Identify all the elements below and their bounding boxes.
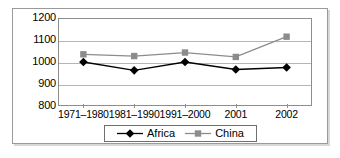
data-point-africa-0 bbox=[79, 58, 88, 67]
y-axis: 800900100011001200 bbox=[10, 0, 56, 158]
legend-marker-square-icon bbox=[185, 128, 211, 139]
data-point-africa-3 bbox=[232, 65, 241, 74]
data-point-africa-4 bbox=[282, 63, 291, 72]
chart-legend: AfricaChina bbox=[104, 125, 257, 142]
legend-marker-diamond-icon bbox=[117, 128, 143, 139]
data-point-africa-1 bbox=[130, 66, 139, 75]
legend-label-china: China bbox=[215, 128, 244, 139]
data-point-africa-2 bbox=[181, 58, 190, 67]
x-tick-mark-0 bbox=[83, 104, 84, 108]
chart-figure: 800900100011001200 1971–19801981–1990199… bbox=[0, 0, 340, 158]
y-tick-label-1200: 1200 bbox=[14, 12, 56, 23]
x-tick-label-2: 1991–2000 bbox=[160, 108, 211, 121]
x-tick-label-4: 2002 bbox=[275, 108, 298, 121]
x-tick-mark-4 bbox=[287, 104, 288, 108]
legend-label-africa: Africa bbox=[147, 128, 175, 139]
y-tick-label-800: 800 bbox=[14, 100, 56, 111]
data-point-china-4 bbox=[283, 34, 289, 40]
x-tick-label-1: 1981–1990 bbox=[109, 108, 160, 121]
x-tick-mark-3 bbox=[236, 104, 237, 108]
data-point-china-1 bbox=[131, 53, 137, 59]
legend-entry-africa: Africa bbox=[117, 128, 175, 139]
data-point-china-2 bbox=[182, 49, 188, 55]
y-tick-label-1000: 1000 bbox=[14, 56, 56, 67]
y-tick-label-900: 900 bbox=[14, 78, 56, 89]
x-tick-mark-1 bbox=[134, 104, 135, 108]
data-series-layer bbox=[58, 18, 312, 106]
x-axis: 1971–19801981–19901991–200020012002 bbox=[58, 108, 312, 124]
x-tick-label-0: 1971–1980 bbox=[58, 108, 109, 121]
data-point-china-0 bbox=[80, 51, 86, 57]
y-tick-label-1100: 1100 bbox=[14, 34, 56, 45]
data-point-china-3 bbox=[233, 54, 239, 60]
legend-entry-china: China bbox=[185, 128, 244, 139]
series-africa bbox=[79, 58, 291, 75]
x-tick-mark-2 bbox=[185, 104, 186, 108]
x-tick-label-3: 2001 bbox=[225, 108, 248, 121]
series-china bbox=[80, 34, 290, 61]
